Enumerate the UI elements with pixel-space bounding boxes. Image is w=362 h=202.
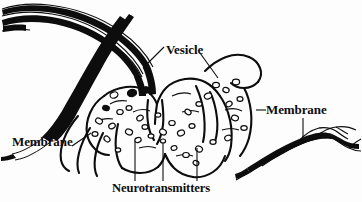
vesicle bbox=[127, 88, 138, 97]
vesicle bbox=[142, 125, 148, 130]
vesicle bbox=[213, 82, 220, 87]
vesicle bbox=[103, 135, 111, 143]
vesicle bbox=[177, 129, 186, 137]
vesicle bbox=[155, 113, 161, 117]
label-membrane-right: Membrane bbox=[266, 103, 327, 116]
vesicle bbox=[126, 106, 132, 111]
label-vesicle: Vesicle bbox=[166, 43, 203, 56]
vesicle bbox=[92, 132, 98, 137]
vesicle bbox=[231, 114, 239, 121]
vesicle bbox=[108, 122, 116, 130]
label-membrane-left: Membrane bbox=[12, 135, 73, 148]
leader-vesicle-left bbox=[143, 47, 164, 68]
vesicle bbox=[160, 139, 165, 143]
vesicle bbox=[241, 126, 247, 131]
vesicle bbox=[222, 87, 230, 94]
vesicle bbox=[136, 114, 144, 122]
vesicle bbox=[189, 124, 195, 129]
vesicle bbox=[102, 105, 110, 112]
vesicle bbox=[95, 117, 104, 125]
left-band-terminal-hook bbox=[1, 154, 16, 161]
vesicle bbox=[171, 145, 178, 151]
vesicle bbox=[183, 153, 190, 158]
vesicle bbox=[210, 140, 216, 145]
vesicle bbox=[192, 160, 199, 167]
postsynaptic-membrane-outline bbox=[236, 127, 361, 180]
vesicles-group bbox=[92, 79, 247, 166]
vesicle bbox=[194, 145, 203, 153]
synapse-drawing bbox=[0, 0, 362, 202]
vesicle bbox=[184, 108, 192, 116]
postsynaptic-membrane-band bbox=[235, 133, 359, 180]
vesicle bbox=[196, 102, 202, 107]
synapse-diagram-figure: Vesicle Membrane Membrane Neurotransmitt… bbox=[0, 0, 362, 202]
vesicle bbox=[169, 121, 175, 126]
label-neurotransmitters: Neurotransmitters bbox=[112, 182, 210, 195]
vesicle bbox=[148, 134, 154, 138]
vesicle bbox=[125, 128, 134, 136]
vesicle bbox=[115, 148, 120, 152]
vesicle bbox=[237, 97, 243, 102]
vesicle bbox=[117, 110, 123, 115]
vesicle bbox=[232, 79, 239, 85]
